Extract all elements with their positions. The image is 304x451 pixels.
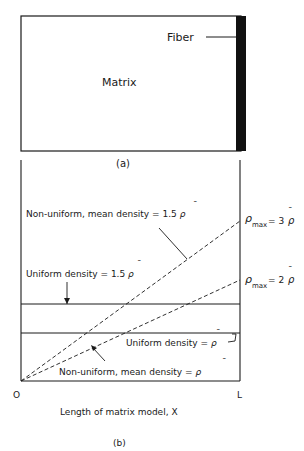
label-rho-max-3: ρ max = 3 ρ ¯ xyxy=(245,206,295,229)
rho-bar-mark-3: ¯ xyxy=(216,328,221,338)
svg-text:ρ: ρ xyxy=(288,215,295,226)
leader-uniform-low xyxy=(228,334,236,342)
svg-text:ρ: ρ xyxy=(245,273,252,286)
label-nonuniform-high: Non-uniform, mean density = 1.5 ρ xyxy=(26,209,186,219)
fiber-bar xyxy=(236,16,246,151)
rho-bar-mark-1: ¯ xyxy=(193,200,198,210)
origin-label: O xyxy=(13,390,20,400)
nonuniform-low-line xyxy=(21,280,240,381)
svg-text:¯: ¯ xyxy=(288,265,293,275)
fiber-label: Fiber xyxy=(167,31,194,44)
x-axis-label: Length of matrix model, X xyxy=(60,407,178,417)
rho-bar-mark-4: ¯ xyxy=(222,357,227,367)
end-label: L xyxy=(237,390,242,400)
leader-nonuniform-high xyxy=(159,228,187,259)
svg-text:ρ: ρ xyxy=(288,274,295,285)
svg-text:max: max xyxy=(252,221,267,229)
svg-text:¯: ¯ xyxy=(288,206,293,216)
label-uniform-high: Uniform density = 1.5 ρ xyxy=(26,269,134,279)
leader-nonuniform-low xyxy=(93,348,105,361)
svg-text:ρ: ρ xyxy=(245,212,252,225)
label-rho-max-2: ρ max = 2 ρ ¯ xyxy=(245,265,295,290)
arrow-uniform-high xyxy=(64,298,70,304)
matrix-label: Matrix xyxy=(102,76,137,89)
svg-text:= 2: = 2 xyxy=(268,275,284,285)
label-nonuniform-low: Non-uniform, mean density = ρ xyxy=(59,367,201,377)
rho-bar-mark-2: ¯ xyxy=(137,259,142,269)
figure-b: Non-uniform, mean density = 1.5 ρ ¯ Unif… xyxy=(13,160,295,448)
nonuniform-high-line xyxy=(21,221,240,381)
svg-text:max: max xyxy=(252,282,267,290)
caption-b: (b) xyxy=(113,438,126,448)
figure-canvas: Fiber Matrix (a) Non-uniform, mean densi… xyxy=(0,0,304,451)
label-uniform-low: Uniform density = ρ xyxy=(126,338,217,348)
figure-a: Fiber Matrix (a) xyxy=(21,16,246,169)
svg-text:= 3: = 3 xyxy=(268,216,284,226)
caption-a: (a) xyxy=(116,158,130,169)
